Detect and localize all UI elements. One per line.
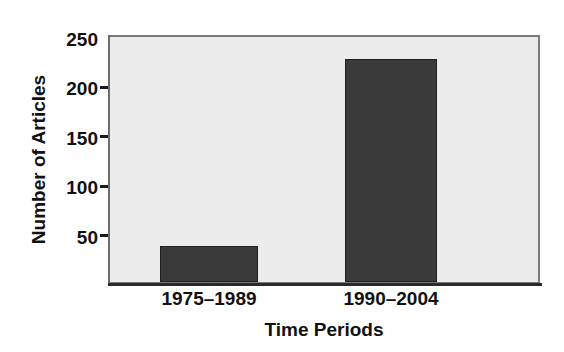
y-tick-label-150: 150: [0, 129, 98, 148]
y-tick-label-50: 50: [0, 228, 98, 247]
y-tick-label-250: 250: [0, 30, 98, 49]
y-tick-label-200: 200: [0, 79, 98, 98]
x-tick-label-1990-2004: 1990–2004: [291, 289, 491, 308]
x-axis-title: Time Periods: [108, 320, 540, 339]
x-axis-line: [108, 283, 542, 286]
bar-chart-figure: Number of Articles 250 200 150 100 50 19…: [0, 0, 564, 352]
plot-area: [108, 35, 540, 284]
y-axis-tick-labels: 250 200 150 100 50: [0, 0, 98, 352]
x-tick-label-1975-1989: 1975–1989: [109, 289, 309, 308]
bar-1990-2004: [345, 59, 437, 282]
bar-1975-1989: [160, 246, 258, 282]
y-tick-label-100: 100: [0, 178, 98, 197]
y-axis-line: [108, 35, 110, 285]
